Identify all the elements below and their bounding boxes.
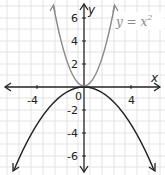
y-tick-label: 6 [71,12,78,25]
equation-label: y = x2 [114,12,164,30]
svg-text:y = x2: y = x2 [115,13,152,29]
equation-exponent: 2 [146,13,152,22]
equation-text: y = x [115,15,147,29]
y-tick-label: 4 [71,35,78,48]
x-tick-label: -4 [27,94,38,107]
y-tick-label: -4 [67,127,78,140]
graph: -4 4 0 6 4 2 -2 -4 -6 x y y = x2 [0,0,165,175]
x-tick-label: 4 [128,94,135,107]
origin-label: 0 [75,90,82,103]
y-tick-label: 2 [71,58,78,71]
y-tick-label: -2 [67,104,78,117]
x-axis-label: x [150,71,159,85]
y-axis-label: y [87,3,96,17]
y-tick-label: -6 [67,150,78,163]
